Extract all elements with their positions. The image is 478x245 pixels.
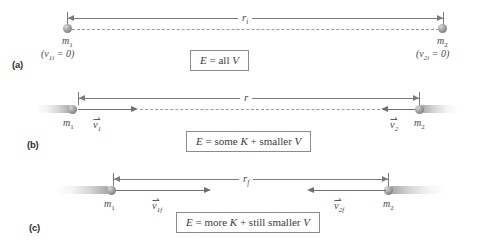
mass-sphere-m2-a [438, 24, 447, 33]
initial-velocity-note-m1: (v1i = 0) [41, 49, 74, 63]
energy-plus-b: + smaller [248, 135, 295, 147]
init-vel-open-m1: (v [41, 48, 49, 59]
mass-sphere-m1-b [68, 105, 77, 114]
potential-symbol-b: V [295, 135, 302, 147]
energy-symbol-a: E [200, 54, 207, 66]
energy-equals-c: = more [193, 216, 230, 228]
dimension-arrowhead-right-b [413, 95, 419, 101]
distance-label-a: ri [238, 12, 252, 27]
velocity-subscript-v1f-c: 1f [157, 206, 162, 214]
panel-c: (c) rf m1 m2 ⇀v1f ⇀v2f [0, 160, 478, 242]
velocity-label-v2-b: ⇀v2 [390, 119, 398, 135]
mass-label-m2-c: m2 [383, 199, 394, 213]
motion-trail-m1-b [36, 105, 72, 113]
energy-box-b: E = some K + smaller V [186, 131, 311, 152]
velocity-arrow-line-v2f-c [312, 190, 386, 191]
physics-figure: (a) ri m1 m2 (v1i = 0) (v2i = 0) E = all… [0, 0, 478, 245]
separation-dashed-line-b [140, 109, 380, 110]
mass-label-m2-b: m2 [414, 118, 425, 132]
panel-letter-b: (b) [27, 139, 39, 150]
mass-label-m1-c: m1 [104, 199, 115, 213]
vector-harpoon-v1-b: ⇀ [93, 114, 101, 125]
dimension-arrowhead-left-c [114, 176, 120, 182]
potential-symbol-c: V [303, 216, 310, 228]
init-vel-open-m2: (v [416, 48, 424, 59]
velocity-label-v2f-c: ⇀v2f [334, 200, 344, 216]
distance-label-c: rf [239, 173, 253, 188]
velocity-subscript-v2f-c: 2f [339, 206, 344, 214]
velocity-arrow-line-m1-b [78, 109, 133, 110]
initial-velocity-note-m2: (v2i = 0) [416, 49, 449, 63]
distance-symbol-b: r [244, 91, 248, 103]
mass-subscript-m1-c: 1 [111, 204, 115, 212]
vector-harpoon-v1f-c: ⇀ [152, 195, 160, 206]
energy-symbol-c: E [186, 216, 193, 228]
kinetic-symbol-b: K [240, 135, 247, 147]
mass-subscript-m1-b: 1 [70, 123, 74, 131]
velocity-label-v1f-c: ⇀v1f [152, 200, 162, 216]
potential-symbol-a: V [232, 54, 239, 66]
dimension-arrowhead-right-c [382, 176, 388, 182]
velocity-arrowhead-v1f-c [204, 187, 211, 193]
mass-label-m1-b: m1 [63, 118, 74, 132]
velocity-subscript-v1-b: 1 [98, 125, 102, 133]
mass-sphere-m1-a [63, 24, 72, 33]
energy-equals-b: = some [203, 135, 241, 147]
vector-harpoon-v2-b: ⇀ [390, 114, 398, 125]
vector-harpoon-v2f-c: ⇀ [334, 195, 342, 206]
distance-subscript-a: i [246, 17, 248, 26]
dimension-line-a [67, 18, 444, 19]
velocity-arrow-line-v1f-c [115, 190, 206, 191]
velocity-arrowhead-v2f-c [307, 187, 314, 193]
panel-letter-a: (a) [12, 59, 23, 70]
velocity-label-v1-b: ⇀v1 [93, 119, 101, 135]
dimension-arrowhead-left-a [68, 15, 74, 21]
distance-label-b: r [240, 92, 252, 107]
dimension-arrowhead-right-a [437, 15, 443, 21]
panel-b: (b) r m1 m2 ⇀v1 ⇀v2 [0, 80, 478, 162]
velocity-arrowhead-m2-b [381, 106, 388, 112]
separation-dashed-line-a [72, 29, 439, 30]
distance-subscript-c: f [247, 178, 249, 187]
motion-trail-m2-b [420, 105, 458, 113]
mass-subscript-m2-b: 2 [421, 123, 425, 131]
panel-a: (a) ri m1 m2 (v1i = 0) (v2i = 0) E = all… [0, 0, 478, 82]
energy-equals-a: = all [207, 54, 232, 66]
energy-symbol-b: E [196, 135, 203, 147]
energy-box-c: E = more K + still smaller V [176, 212, 320, 233]
motion-trail-m1-c [56, 186, 110, 194]
init-vel-tail-m2: = 0) [429, 48, 449, 59]
motion-trail-m2-c [389, 186, 445, 194]
dimension-arrowhead-left-b [79, 95, 85, 101]
panel-letter-c: (c) [29, 222, 40, 233]
mass-subscript-m2-c: 2 [390, 204, 394, 212]
velocity-arrow-line-m2-b [386, 109, 415, 110]
energy-box-a: E = all V [190, 50, 249, 71]
velocity-arrowhead-m1-b [131, 106, 138, 112]
mass-sphere-m2-b [415, 105, 424, 114]
energy-plus-c: + still smaller [237, 216, 303, 228]
init-vel-tail-m1: = 0) [54, 48, 74, 59]
velocity-subscript-v2-b: 2 [395, 125, 399, 133]
